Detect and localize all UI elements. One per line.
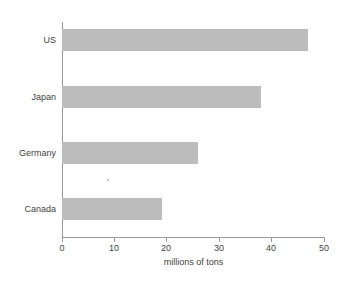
y-axis-label-japan: Japan [0,86,56,108]
x-axis-tick-3 [219,238,220,242]
y-axis-label-us: US [0,29,56,51]
bar-canada [62,198,162,220]
x-axis-tick-label-2: 20 [154,243,178,254]
x-axis-tick-1 [114,238,115,242]
scan-speck [107,179,109,181]
x-axis-tick-5 [324,238,325,242]
x-axis-tick-label-4: 40 [259,243,283,254]
x-axis-tick-label-5: 50 [312,243,336,254]
y-axis-label-canada: Canada [0,198,56,220]
x-axis-tick-label-1: 10 [102,243,126,254]
x-axis-tick-label-0: 0 [50,243,74,254]
bar-us [62,29,308,51]
y-axis-label-germany: Germany [0,142,56,164]
x-axis-title: millions of tons [62,257,325,268]
bar-japan [62,86,261,108]
x-axis-tick-0 [62,238,63,242]
bar-germany [62,142,198,164]
bar-chart-figure: 0 10 20 30 40 50 US Japan Germany Canada… [0,0,352,281]
x-axis-tick-label-3: 30 [207,243,231,254]
x-axis-tick-4 [271,238,272,242]
x-axis-tick-2 [166,238,167,242]
x-axis-line [62,237,325,238]
